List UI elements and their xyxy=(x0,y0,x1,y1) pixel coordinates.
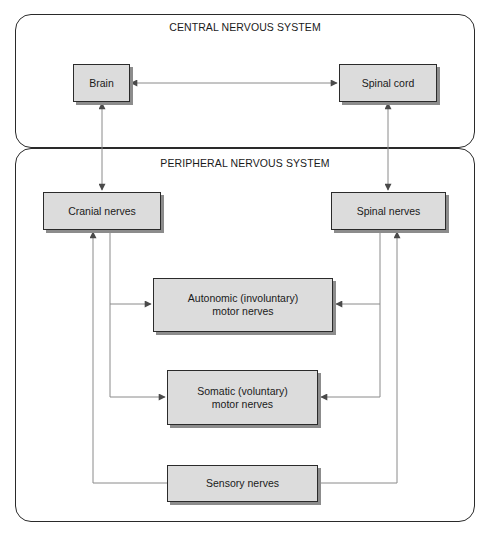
peripheral-nervous-system-title: PERIPHERAL NERVOUS SYSTEM xyxy=(16,157,474,169)
spinal-nerves-node[interactable]: Spinal nerves xyxy=(331,192,446,230)
brain-label: Brain xyxy=(89,77,114,90)
autonomic-motor-nerves-node[interactable]: Autonomic (involuntary) motor nerves xyxy=(153,278,333,332)
spinal-cord-node[interactable]: Spinal cord xyxy=(339,64,437,102)
spinal-nerves-label: Spinal nerves xyxy=(357,205,421,218)
cranial-nerves-node[interactable]: Cranial nerves xyxy=(43,192,161,230)
cranial-nerves-label: Cranial nerves xyxy=(68,205,136,218)
sensory-nerves-label: Sensory nerves xyxy=(206,477,279,490)
autonomic-motor-nerves-label: Autonomic (involuntary) motor nerves xyxy=(188,292,298,318)
central-nervous-system-title: CENTRAL NERVOUS SYSTEM xyxy=(16,21,474,33)
spinal-cord-label: Spinal cord xyxy=(362,77,415,90)
somatic-motor-nerves-node[interactable]: Somatic (voluntary) motor nerves xyxy=(167,370,318,425)
somatic-motor-nerves-label: Somatic (voluntary) motor nerves xyxy=(197,385,287,411)
sensory-nerves-node[interactable]: Sensory nerves xyxy=(167,465,318,502)
brain-node[interactable]: Brain xyxy=(73,64,130,102)
